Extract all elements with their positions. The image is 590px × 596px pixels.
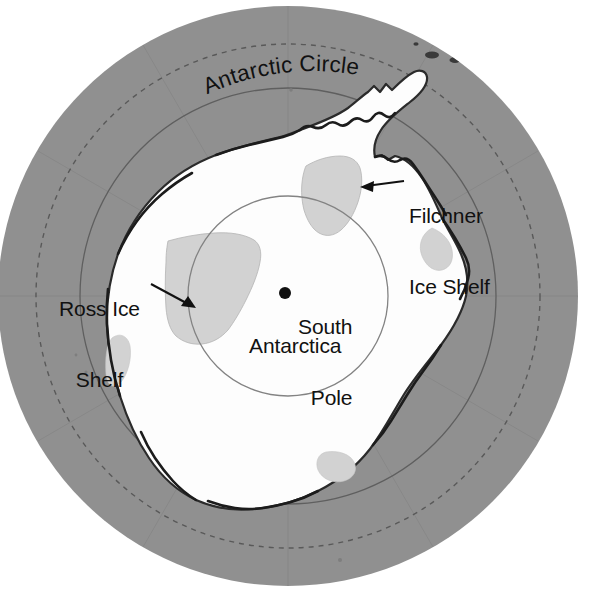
south-pole-label-line2: Pole [298, 386, 352, 410]
ross-label-line1: Ross Ice [59, 297, 140, 321]
antarctica-label: Antarctica [249, 334, 341, 358]
ross-ice-shelf-label: Ross Ice Shelf [59, 250, 140, 438]
filchner-label-line1: Filchner [409, 204, 490, 228]
ross-label-line2: Shelf [59, 368, 140, 392]
filchner-label-line2: Ice Shelf [409, 275, 490, 299]
antarctica-map: Antarctic Circle Filchner Ice Shelf Ross… [0, 0, 590, 596]
south-pole-marker [279, 287, 291, 299]
filchner-ice-shelf-label: Filchner Ice Shelf [409, 157, 490, 345]
south-pole-label: South Pole [298, 268, 352, 456]
